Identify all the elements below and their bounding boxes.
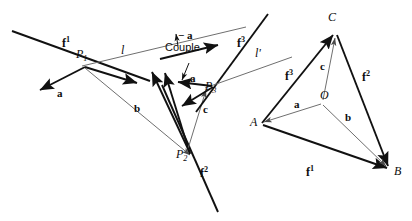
polygon-edge-f1 — [263, 125, 387, 168]
label-minus-a: − a — [178, 30, 193, 41]
label-f2-right: f2 — [362, 70, 370, 83]
label-p3: P3 — [205, 80, 216, 96]
label-f2-left: f2 — [200, 166, 208, 179]
label-f1-left: f1 — [62, 36, 70, 49]
line-of-action-f3 — [196, 14, 268, 112]
polygon-edge-f2 — [337, 35, 388, 166]
label-vector-b: b — [134, 103, 140, 114]
label-vector-c: c — [203, 104, 208, 115]
line-l-prime — [205, 57, 292, 88]
label-vertex-o: O — [320, 89, 329, 101]
polygon-ray-a — [264, 104, 321, 122]
ray-c-p2-to-p3 — [187, 90, 206, 152]
vector-f2-arrow-at-p2 — [165, 73, 190, 154]
label-ray-b: b — [345, 112, 351, 123]
label-line-l-prime: l' — [255, 47, 261, 59]
label-vector-a-couple: a — [190, 73, 196, 84]
label-vertex-c: C — [328, 11, 336, 23]
couple-leader-a — [182, 63, 189, 80]
line-l — [82, 27, 246, 66]
vector-long-up-arrow — [152, 72, 190, 153]
label-vertex-b: B — [394, 165, 401, 177]
label-p2: P2 — [176, 148, 187, 164]
label-ray-c: c — [320, 61, 325, 72]
label-p1: P1 — [76, 48, 87, 64]
label-line-l: l — [121, 44, 124, 56]
label-vector-a-p1: a — [57, 88, 63, 99]
label-f3-left: f3 — [237, 36, 245, 49]
label-f1-right: f1 — [306, 165, 314, 178]
label-f3-right: f3 — [285, 69, 293, 82]
figure-container: f1 P1 l a b c − a Couple a P3 P2 f2 f3 l… — [0, 0, 412, 221]
label-ray-a: a — [294, 99, 300, 110]
label-vertex-a: A — [250, 116, 257, 128]
label-couple: Couple — [165, 42, 200, 53]
line-of-action-f2 — [162, 85, 218, 212]
